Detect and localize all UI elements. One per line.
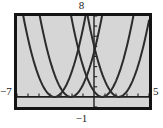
graphing-calculator-figure: 8 −7 5 −1 xyxy=(0,0,163,128)
x-max-label: 5 xyxy=(153,86,163,97)
y-max-label: 8 xyxy=(0,0,163,11)
calculator-screen xyxy=(14,13,152,110)
x-min-label: −7 xyxy=(0,86,14,97)
parabola-curve-3 xyxy=(70,16,136,97)
parabola-curve-1 xyxy=(22,16,88,97)
y-min-label: −1 xyxy=(0,113,163,124)
plot-area xyxy=(17,16,149,107)
